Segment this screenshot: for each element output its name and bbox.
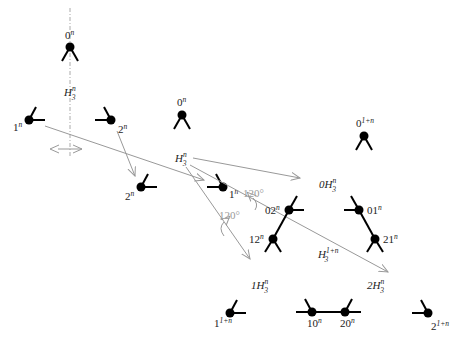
arrow-2-to-mid	[117, 131, 135, 176]
node-mid-1: 1n	[207, 174, 239, 200]
node-01: 01n	[344, 196, 382, 216]
node-02: 02n	[265, 196, 304, 216]
node-1-1plusn: 11+n	[214, 300, 246, 329]
node-mid-2: 2n	[125, 174, 157, 202]
svg-text:01+n: 01+n	[356, 116, 374, 129]
node-2-1plusn: 21+n	[412, 300, 449, 332]
subgroup-label-2H: 2Hn3	[367, 277, 384, 295]
arrow-H-to-1H	[186, 167, 250, 259]
svg-text:0n: 0n	[177, 95, 187, 108]
svg-text:10n: 10n	[307, 316, 322, 329]
svg-text:21+n: 21+n	[431, 319, 449, 332]
svg-text:2n: 2n	[118, 122, 128, 135]
subgroup-label-0H: 0Hn3	[319, 176, 336, 194]
svg-text:0n: 0n	[65, 28, 75, 41]
node-left-2: 2n	[95, 107, 128, 135]
svg-text:21n: 21n	[383, 232, 398, 245]
svg-text:01n: 01n	[367, 203, 382, 216]
svg-text:12n: 12n	[249, 232, 264, 245]
svg-text:11+n: 11+n	[214, 316, 232, 329]
middle-group: 0n Hn3 2n 1n	[125, 95, 239, 202]
svg-text:1n: 1n	[13, 120, 23, 133]
rotation-arc-2	[221, 222, 224, 236]
node-21: 21n	[367, 232, 398, 252]
svg-text:20n: 20n	[340, 316, 355, 329]
svg-text:02n: 02n	[265, 203, 280, 216]
subgroup-label-1H: 1Hn3	[251, 277, 268, 295]
left-group-label: Hn3	[63, 84, 76, 102]
node-mid-0: 0n	[174, 95, 190, 129]
angle-label-1: 120°	[243, 187, 264, 199]
node-left-1: 1n	[13, 107, 45, 133]
node-20: 20n	[340, 299, 355, 329]
node-10: 10n	[305, 299, 322, 329]
right-group: 01+n 0Hn3 02n 12n 01n	[214, 116, 449, 332]
node-0-1plusn: 01+n	[356, 116, 374, 150]
svg-text:2n: 2n	[125, 189, 135, 202]
middle-group-label: Hn3	[174, 150, 187, 168]
hanoi-graph-diagram: 0n Hn3 1n 2n 0n Hn3	[0, 0, 462, 340]
angle-label-2: 120°	[219, 209, 240, 221]
right-group-label: H1+n3	[317, 246, 339, 264]
